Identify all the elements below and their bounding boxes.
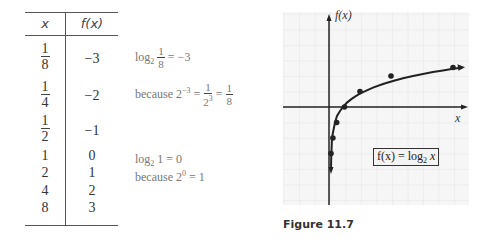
table-top-rule [25, 12, 118, 13]
data-point [342, 104, 348, 110]
data-point [330, 135, 336, 141]
table-cell-fx: −2 [66, 88, 118, 104]
table-header-fx: f(x) [66, 16, 118, 31]
graph-svg [283, 12, 469, 205]
table-cell-fx: 3 [66, 200, 118, 216]
note-log-one-eighth: log2 18 = −3 [135, 46, 190, 70]
table-bottom-rule [25, 225, 118, 226]
table-cell-fx: −1 [66, 123, 118, 139]
note-because-two-neg3: because 2−3 = 123 = 18 [135, 82, 233, 108]
table-row: 12 [25, 114, 65, 144]
figure-caption: Figure 11.7 [283, 218, 354, 231]
table-header-rule [25, 35, 118, 36]
data-point [388, 73, 394, 79]
y-axis-label: f(x) [335, 8, 352, 23]
note-because-two-zero: because 20 = 1 [135, 169, 205, 185]
fraction: 18 [226, 83, 234, 107]
fraction: 18 [157, 46, 165, 70]
fraction: 14 [41, 80, 50, 110]
table-cell-fx: −3 [66, 51, 118, 67]
table-cell-fx: 2 [66, 183, 118, 199]
data-point [334, 120, 340, 126]
data-point [357, 89, 363, 95]
data-point [328, 151, 334, 157]
table-row: 14 [25, 80, 65, 110]
table-cell-x: 4 [25, 183, 65, 199]
table-cell-x: 2 [25, 165, 65, 181]
fraction: 123 [203, 82, 213, 108]
table-header-x: x [25, 16, 65, 31]
data-point [450, 65, 456, 71]
table-row: 18 [25, 42, 65, 72]
fraction: 18 [41, 42, 50, 72]
log-graph: f(x) x f(x) = log2 x [283, 12, 469, 205]
table-cell-x: 1 [25, 148, 65, 164]
grid-lines [283, 12, 469, 205]
x-axis-label: x [455, 111, 460, 126]
function-label: f(x) = log2 x [373, 148, 439, 166]
table-cell-fx: 1 [66, 165, 118, 181]
table-cell-fx: 0 [66, 148, 118, 164]
table-cell-x: 8 [25, 200, 65, 216]
fraction: 12 [41, 114, 50, 144]
note-log-one: log2 1 = 0 [135, 152, 182, 168]
